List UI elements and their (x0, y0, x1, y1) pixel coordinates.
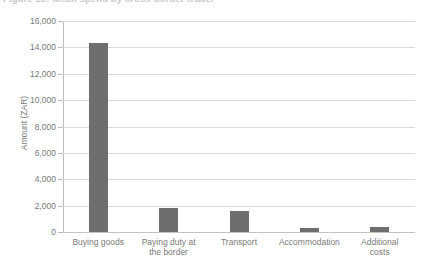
y-tick-label: 10,000 (2, 95, 56, 105)
x-category-label-line1: Paying duty at (133, 237, 203, 247)
y-tick-16000 (58, 21, 63, 22)
figure-title: Figure 10: Mean spend by cross-border tr… (3, 0, 333, 4)
x-category-label: Buying goods (63, 237, 133, 247)
bar (230, 211, 249, 232)
x-category-label-line1: Accommodation (274, 237, 344, 247)
x-category-label: Paying duty atthe border (133, 237, 203, 257)
y-tick-2000 (58, 206, 63, 207)
bar (159, 208, 178, 232)
y-tick-label: 4,000 (2, 174, 56, 184)
x-category-label: Accommodation (274, 237, 344, 247)
figure-container: Figure 10: Mean spend by cross-border tr… (0, 0, 421, 268)
gridline-12000 (63, 74, 415, 75)
y-tick-6000 (58, 153, 63, 154)
x-category-label-line1: Additional (345, 237, 415, 247)
y-tick-14000 (58, 47, 63, 48)
x-category-label: Transport (204, 237, 274, 247)
y-tick-label: 0 (2, 227, 56, 237)
y-tick-label: 12,000 (2, 69, 56, 79)
y-tick-label: 6,000 (2, 148, 56, 158)
y-tick-12000 (58, 74, 63, 75)
gridline-8000 (63, 127, 415, 128)
plot-area (63, 21, 415, 232)
x-category-label-line2: the border (133, 247, 203, 257)
y-tick-label: 16,000 (2, 16, 56, 26)
gridline-16000 (63, 21, 415, 22)
gridline-2000 (63, 206, 415, 207)
y-tick-8000 (58, 127, 63, 128)
figure-title-text: Figure 10: Mean spend by cross-border tr… (3, 0, 215, 4)
x-category-label-line1: Transport (204, 237, 274, 247)
bar (370, 227, 389, 232)
bar (300, 228, 319, 232)
y-tick-label: 2,000 (2, 201, 56, 211)
gridline-14000 (63, 47, 415, 48)
y-tick-0 (58, 232, 63, 233)
y-tick-10000 (58, 100, 63, 101)
y-tick-label: 14,000 (2, 42, 56, 52)
x-category-label: Additionalcosts (345, 237, 415, 257)
bar (89, 43, 108, 232)
gridline-6000 (63, 153, 415, 154)
gridline-4000 (63, 179, 415, 180)
gridline-0 (63, 232, 415, 233)
x-category-label-line2: costs (345, 247, 415, 257)
gridline-10000 (63, 100, 415, 101)
x-category-label-line1: Buying goods (63, 237, 133, 247)
y-tick-4000 (58, 179, 63, 180)
y-tick-label: 8,000 (2, 122, 56, 132)
